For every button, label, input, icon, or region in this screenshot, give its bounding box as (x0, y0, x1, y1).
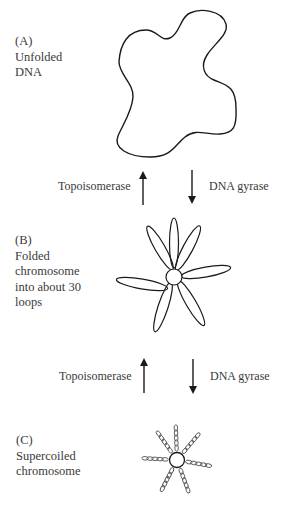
loop-bottom-left (150, 281, 176, 334)
loop-bottom-right (174, 278, 209, 328)
protein-core-b (166, 269, 182, 285)
dna-folding-diagram (0, 0, 284, 507)
protein-core-c (170, 453, 185, 468)
supercoiled-chromosome (142, 425, 212, 494)
loop-right (181, 263, 232, 282)
folded-chromosome (116, 218, 232, 333)
loop-left (116, 275, 169, 294)
unfolded-dna-loop (117, 11, 236, 157)
